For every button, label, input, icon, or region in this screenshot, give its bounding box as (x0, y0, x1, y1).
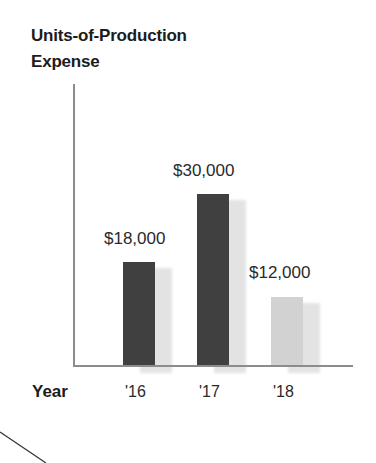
decorative-diagonal-line (0, 0, 376, 463)
